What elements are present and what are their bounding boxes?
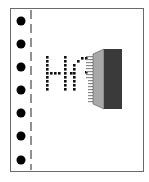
tractor-hole-icon [17, 40, 26, 49]
dot-matrix-printer-icon [0, 0, 149, 182]
print-head-body [104, 49, 122, 109]
tractor-hole-icon [17, 156, 26, 165]
tractor-hole-icon [17, 109, 26, 118]
tractor-hole-icon [17, 132, 26, 141]
tractor-holes [17, 17, 26, 165]
tractor-hole-icon [17, 86, 26, 95]
tractor-hole-icon [17, 17, 26, 26]
print-head-pins [86, 56, 93, 102]
dot-matrix-text [46, 56, 88, 91]
tractor-hole-icon [17, 63, 26, 72]
print-head-face [93, 49, 104, 109]
